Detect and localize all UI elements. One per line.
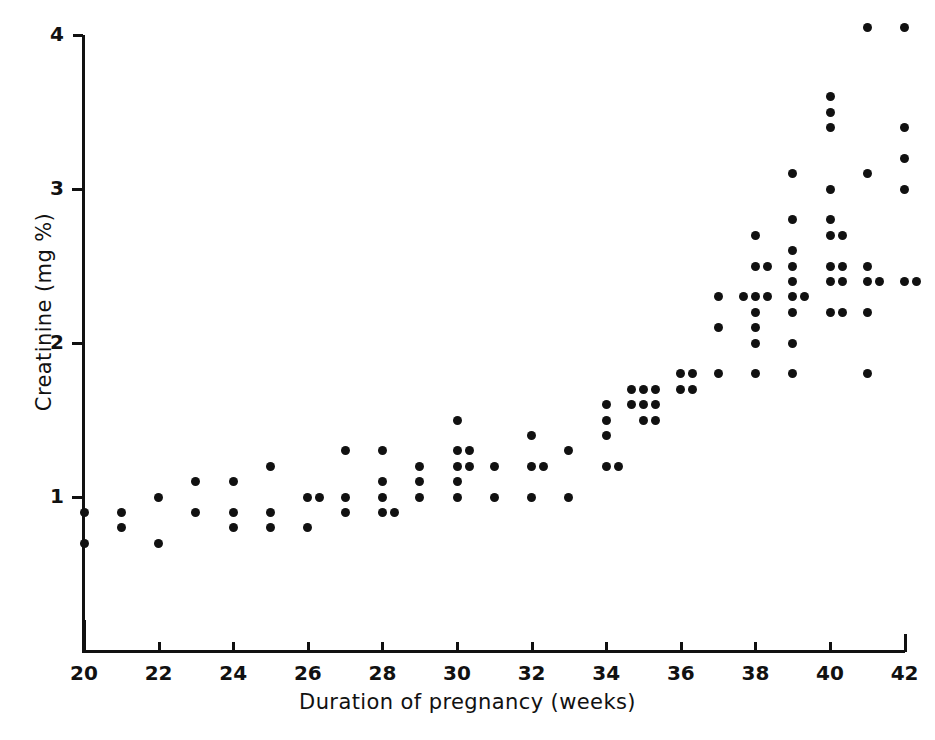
data-point <box>676 369 685 378</box>
axis-break-dash-3 <box>82 572 85 584</box>
x-tick-20 <box>83 620 86 652</box>
data-point <box>863 169 872 178</box>
data-point <box>651 385 660 394</box>
data-point <box>800 292 809 301</box>
data-point <box>838 277 847 286</box>
data-point <box>676 385 685 394</box>
data-point <box>602 400 611 409</box>
data-point <box>564 493 573 502</box>
x-tick-label-22: 22 <box>131 662 187 684</box>
data-point <box>826 262 835 271</box>
data-point <box>863 277 872 286</box>
data-point <box>838 231 847 240</box>
data-point <box>527 462 536 471</box>
data-point <box>627 400 636 409</box>
data-point <box>838 308 847 317</box>
data-point <box>763 262 772 271</box>
data-point <box>639 400 648 409</box>
data-point <box>751 292 760 301</box>
data-point <box>614 462 623 471</box>
data-point <box>229 523 238 532</box>
data-point <box>751 323 760 332</box>
data-point <box>688 385 697 394</box>
data-point <box>378 508 387 517</box>
x-tick-label-24: 24 <box>205 662 261 684</box>
x-tick-40 <box>829 642 832 651</box>
data-point <box>527 431 536 440</box>
x-tick-label-26: 26 <box>280 662 336 684</box>
data-point <box>900 185 909 194</box>
data-point <box>415 462 424 471</box>
x-axis-title: Duration of pregnancy (weeks) <box>0 690 935 714</box>
data-point <box>788 339 797 348</box>
x-tick-34 <box>605 642 608 651</box>
data-point <box>763 292 772 301</box>
x-tick-label-36: 36 <box>653 662 709 684</box>
x-tick-26 <box>307 642 310 651</box>
x-tick-24 <box>232 642 235 651</box>
data-point <box>191 477 200 486</box>
data-point <box>688 369 697 378</box>
data-point <box>788 277 797 286</box>
data-point <box>714 292 723 301</box>
data-point <box>564 446 573 455</box>
data-point <box>788 369 797 378</box>
y-tick-label-1: 1 <box>30 486 64 506</box>
data-point <box>390 508 399 517</box>
data-point <box>229 477 238 486</box>
axis-break-dash-2 <box>82 557 85 566</box>
data-point <box>490 462 499 471</box>
y-tick-3 <box>72 188 83 191</box>
x-tick-label-20: 20 <box>56 662 112 684</box>
data-point <box>751 231 760 240</box>
data-point <box>639 385 648 394</box>
x-tick-22 <box>158 642 161 651</box>
data-point <box>229 508 238 517</box>
x-tick-label-30: 30 <box>429 662 485 684</box>
data-point <box>154 493 163 502</box>
data-point <box>826 185 835 194</box>
data-point <box>651 400 660 409</box>
x-tick-label-34: 34 <box>578 662 634 684</box>
data-point <box>341 446 350 455</box>
y-tick-4 <box>73 34 83 37</box>
data-point <box>826 123 835 132</box>
x-tick-36 <box>680 642 683 651</box>
x-tick-32 <box>531 642 534 651</box>
x-tick-38 <box>754 642 757 651</box>
data-point <box>639 416 648 425</box>
x-tick-label-32: 32 <box>504 662 560 684</box>
data-point <box>453 477 462 486</box>
data-point <box>490 493 499 502</box>
x-tick-30 <box>456 642 459 651</box>
axis-break-dash-0 <box>82 527 85 536</box>
data-point <box>602 462 611 471</box>
data-point <box>875 277 884 286</box>
data-point <box>465 446 474 455</box>
data-point <box>266 523 275 532</box>
data-point <box>900 23 909 32</box>
data-point <box>303 493 312 502</box>
data-point <box>453 416 462 425</box>
data-point <box>788 308 797 317</box>
data-point <box>751 308 760 317</box>
data-point <box>117 523 126 532</box>
data-point <box>651 416 660 425</box>
data-point <box>826 108 835 117</box>
data-point <box>378 477 387 486</box>
data-point <box>826 231 835 240</box>
y-tick-2 <box>72 342 83 345</box>
data-point <box>863 23 872 32</box>
data-point <box>341 493 350 502</box>
data-point <box>415 477 424 486</box>
x-axis-line <box>82 650 905 653</box>
data-point <box>788 215 797 224</box>
data-point <box>788 246 797 255</box>
x-tick-label-40: 40 <box>802 662 858 684</box>
x-tick-label-38: 38 <box>727 662 783 684</box>
data-point <box>602 431 611 440</box>
data-point <box>788 262 797 271</box>
data-point <box>341 508 350 517</box>
data-point <box>826 92 835 101</box>
data-point <box>826 308 835 317</box>
